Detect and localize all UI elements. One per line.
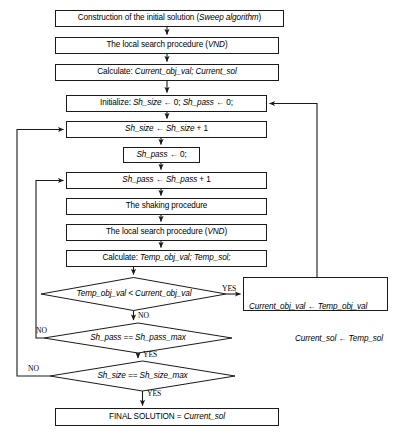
flowchart-graphics — [0, 0, 401, 434]
node-decision-improve-shape — [41, 278, 226, 311]
node-calculate-temp-shape — [67, 251, 267, 267]
flowchart-canvas: Construction of the initial solution (Sw… — [0, 0, 401, 434]
edge-update-current-return-to-initialize — [270, 104, 318, 278]
edge-label-pass-max-yes: YES — [143, 350, 157, 359]
node-decision-pass-max-shape — [44, 323, 232, 353]
node-update-current-shape — [244, 278, 388, 311]
node-final-solution-shape — [56, 409, 279, 426]
edge-label-size-max-yes: YES — [147, 389, 161, 398]
edge-label-improve-no: NO — [138, 311, 149, 320]
node-shaking-shape — [67, 199, 267, 215]
node-reset-sh-pass-shape — [124, 148, 200, 163]
node-inc-sh-pass-shape — [67, 173, 267, 189]
node-construction-shape — [56, 11, 284, 27]
node-local-search-2-shape — [67, 225, 267, 241]
node-local-search-1-shape — [56, 38, 279, 54]
node-calculate-current-shape — [56, 65, 279, 81]
edge-label-improve-yes: YES — [222, 284, 236, 293]
node-initialize-shape — [67, 96, 267, 112]
node-inc-sh-size-shape — [67, 122, 267, 138]
edge-label-size-max-no: NO — [28, 364, 39, 373]
edge-pass-max-no-loop-to-inc-sh-pass — [36, 181, 64, 339]
edge-label-pass-max-no: NO — [36, 326, 47, 335]
node-decision-size-max-shape — [50, 361, 235, 391]
